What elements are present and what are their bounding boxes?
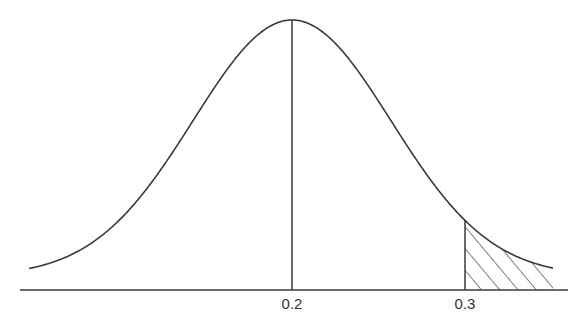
shaded-tail-region <box>465 220 553 290</box>
tick-label-critical: 0.3 <box>455 295 476 312</box>
normal-distribution-chart: 0.2 0.3 <box>0 0 587 330</box>
tick-label-mean: 0.2 <box>282 295 303 312</box>
